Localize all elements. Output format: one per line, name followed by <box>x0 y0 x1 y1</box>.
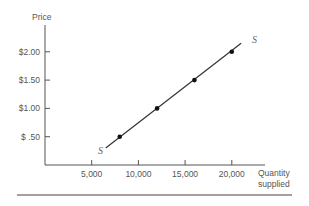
x-tick-label: 20,000 <box>219 169 245 179</box>
data-point <box>230 50 235 55</box>
data-point <box>192 78 197 83</box>
supply-curve-line <box>106 43 241 148</box>
y-tick-label: $1.00 <box>19 103 41 113</box>
x-tick-label: 15,000 <box>172 169 198 179</box>
x-axis-title-line1: Quantity <box>258 168 290 178</box>
x-tick-label: 10,000 <box>125 169 151 179</box>
x-axis-title-line2: supplied <box>258 179 290 189</box>
data-point <box>155 106 160 111</box>
y-tick-label: $2.00 <box>19 47 41 57</box>
y-tick-label: $1.50 <box>19 75 41 85</box>
curve-label-bottom: S <box>98 145 103 156</box>
y-tick-label: $ .50 <box>21 132 40 142</box>
curve-label-top: S <box>252 34 257 45</box>
supply-chart: Price Quantity supplied $ .50$1.00$1.50$… <box>0 0 309 206</box>
data-point <box>117 134 122 139</box>
x-tick-label: 5,000 <box>81 169 103 179</box>
y-axis-title: Price <box>32 12 52 22</box>
